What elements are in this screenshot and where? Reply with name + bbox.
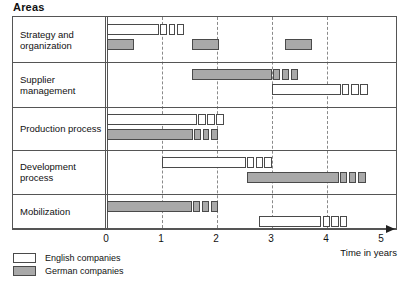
x-tick-label-2: 2	[206, 233, 226, 244]
bar-tail-german-1-3-1	[282, 69, 289, 80]
bar-tail-english-2-2-1	[207, 114, 215, 125]
row-label-2: Production process	[20, 123, 101, 134]
bar-german-3-5	[247, 172, 338, 183]
page-title: Areas	[13, 1, 45, 13]
bar-tail-german-2-4-0	[194, 129, 201, 140]
row-separator	[13, 150, 396, 151]
plot-area	[106, 17, 396, 228]
bar-tail-german-1-3-2	[291, 69, 298, 80]
row-label-4: Mobilization	[20, 206, 70, 217]
bar-english-4-4	[259, 216, 321, 227]
row-separator	[13, 107, 396, 108]
legend-swatch-english	[13, 253, 36, 263]
legend-swatch-german	[13, 266, 36, 276]
bar-tail-english-4-4-1	[331, 216, 338, 227]
row-separator	[13, 62, 396, 63]
x-tick-label-1: 1	[151, 233, 171, 244]
bar-english-1-1	[272, 84, 341, 95]
gantt-chart: Areas Strategy and organizationSupplier …	[0, 0, 409, 282]
bar-tail-english-4-4-0	[323, 216, 330, 227]
x-tick-label-5: 5	[371, 233, 391, 244]
bar-tail-english-1-1-0	[342, 84, 350, 95]
bar-tail-english-0-0-2	[177, 24, 184, 35]
category-label-column: Strategy and organizationSupplier manage…	[13, 17, 106, 228]
bar-tail-english-0-0-0	[160, 24, 167, 35]
bar-tail-german-4-6-1	[202, 201, 209, 212]
bar-tail-english-3-3-1	[256, 157, 263, 168]
bar-tail-german-3-5-0	[340, 172, 348, 183]
legend-label-german: German companies	[45, 265, 124, 277]
x-axis-caption: Time in years	[340, 247, 397, 258]
x-axis-line	[12, 229, 397, 230]
bar-tail-english-3-3-2	[264, 157, 271, 168]
bar-english-3-3	[162, 157, 246, 168]
bar-tail-german-1-3-0	[273, 69, 280, 80]
bar-tail-german-4-6-0	[193, 201, 200, 212]
bar-german-0-1	[192, 39, 219, 50]
bar-tail-german-2-4-2	[211, 129, 218, 140]
bar-tail-english-4-4-2	[340, 216, 347, 227]
bar-german-2-4	[107, 129, 193, 140]
row-label-3: Development process	[20, 161, 76, 183]
row-separator	[13, 194, 396, 195]
bar-tail-english-2-2-2	[216, 114, 224, 125]
x-tick-label-4: 4	[316, 233, 336, 244]
bar-tail-german-4-6-2	[211, 201, 218, 212]
bar-german-1-3	[192, 69, 272, 80]
x-tick-label-3: 3	[261, 233, 281, 244]
bar-tail-english-1-1-1	[351, 84, 359, 95]
gridline-year-3	[272, 17, 273, 228]
bar-tail-german-3-5-1	[349, 172, 357, 183]
row-label-0: Strategy and organization	[20, 29, 74, 51]
bar-tail-english-3-3-0	[247, 157, 254, 168]
legend-label-english: English companies	[45, 252, 121, 264]
row-label-1: Supplier management	[20, 74, 75, 96]
bar-german-0-0	[107, 39, 134, 50]
bar-tail-german-2-4-1	[203, 129, 210, 140]
bar-english-2-2	[107, 114, 197, 125]
bar-tail-english-0-0-1	[169, 24, 176, 35]
x-axis-arrow-icon	[386, 225, 395, 233]
gridline-year-4	[327, 17, 328, 228]
bar-german-0-2	[285, 39, 312, 50]
bar-german-4-6	[107, 201, 192, 212]
bar-tail-english-2-2-0	[198, 114, 206, 125]
bar-tail-german-3-5-2	[358, 172, 366, 183]
x-tick-label-0: 0	[96, 233, 116, 244]
chart-grid: Strategy and organizationSupplier manage…	[12, 16, 397, 229]
bar-english-0-0	[107, 24, 159, 35]
bar-tail-english-1-1-2	[360, 84, 368, 95]
